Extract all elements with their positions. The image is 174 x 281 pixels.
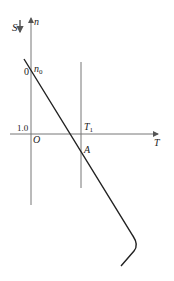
s-label: S (12, 21, 18, 33)
n-axis-label: n (34, 16, 39, 27)
origin-label: O (33, 134, 40, 145)
a-label: A (83, 144, 91, 155)
t1-label: T1 (84, 121, 94, 134)
n0-label: n0 (34, 63, 43, 76)
t-axis-label: T (154, 137, 161, 148)
diagram-canvas: S n 0 n0 1.0 O T1 T A (0, 0, 174, 281)
main-curve (24, 59, 136, 266)
zero-label: 0 (24, 66, 29, 77)
one-label: 1.0 (17, 123, 29, 133)
